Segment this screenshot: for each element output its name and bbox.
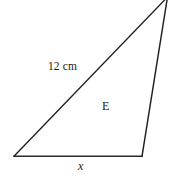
base-variable-label-x: x [78, 160, 83, 172]
geometry-figure: 12 cm E x [0, 0, 174, 181]
region-label-e: E [102, 100, 109, 112]
triangle-drawing [0, 0, 174, 181]
figure-background [0, 0, 174, 181]
side-length-label: 12 cm [48, 61, 77, 73]
